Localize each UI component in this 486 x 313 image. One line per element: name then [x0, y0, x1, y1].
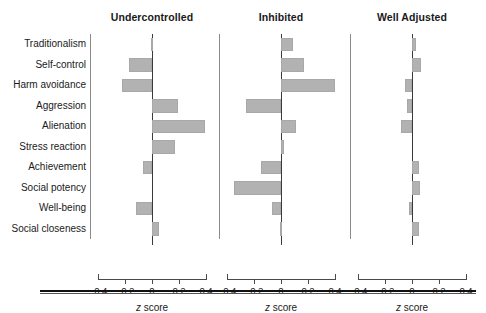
bar: [280, 222, 282, 236]
category-label: Well-being: [39, 198, 86, 219]
bar-row: [227, 178, 368, 199]
bar-row: [227, 96, 368, 117]
category-label: Aggression: [36, 96, 86, 117]
bar: [412, 181, 420, 195]
bar: [281, 120, 296, 134]
x-axis-tick: [206, 274, 207, 280]
bar-row: [358, 219, 486, 240]
x-axis-tick: [358, 274, 359, 280]
category-axis-labels: TraditionalismSelf-controlHarm avoidance…: [0, 34, 92, 239]
x-axis-tick: [227, 274, 228, 280]
category-label: Social potency: [21, 178, 86, 199]
bar-row: [98, 55, 239, 76]
footer-rule-shadow: [40, 293, 476, 294]
x-axis-title: z score: [92, 302, 212, 313]
x-axis-tick: [308, 279, 309, 284]
bar-row: [358, 198, 486, 219]
bar-row: [227, 219, 368, 240]
bar-row: [227, 198, 368, 219]
bar-row: [98, 75, 239, 96]
bar: [152, 120, 205, 134]
bar: [412, 161, 419, 175]
plot-area: [227, 34, 368, 239]
bar: [412, 58, 421, 72]
plot-area: [98, 34, 239, 239]
bar-row: [358, 55, 486, 76]
bar-row: [358, 34, 486, 55]
bar-row: [98, 198, 239, 219]
bar-row: [358, 75, 486, 96]
bar-row: [227, 157, 368, 178]
category-label: Alienation: [42, 116, 86, 137]
left-spine: [350, 34, 351, 239]
bar: [281, 58, 304, 72]
panel-well-adjusted: −0.4−0.200.20.4z score: [358, 34, 486, 239]
bar-row: [98, 157, 239, 178]
x-axis-tick: [254, 279, 255, 284]
bar-row: [227, 116, 368, 137]
bar: [409, 202, 412, 216]
bar: [281, 140, 284, 154]
x-axis-tick: [466, 274, 467, 280]
x-axis-tick: [335, 274, 336, 280]
bar: [412, 38, 416, 52]
left-spine: [219, 34, 220, 239]
panel-inhibited: −0.4−0.200.20.4z score: [227, 34, 368, 239]
x-axis-title: z score: [221, 302, 341, 313]
x-axis-tick: [125, 279, 126, 284]
x-axis-tick: [152, 279, 153, 284]
bar-row: [227, 75, 368, 96]
category-label: Traditionalism: [24, 34, 86, 55]
category-label: Social closeness: [12, 219, 86, 240]
bar-row: [98, 116, 239, 137]
bar: [151, 38, 153, 52]
bar-row: [227, 34, 368, 55]
x-axis-tick: [98, 274, 99, 280]
x-axis-tick: [179, 279, 180, 284]
x-axis-tick: [439, 279, 440, 284]
bar-row: [227, 137, 368, 158]
bar-row: [358, 137, 486, 158]
bar: [407, 99, 412, 113]
x-axis-tick: [281, 279, 282, 284]
bar: [136, 202, 152, 216]
bar: [272, 202, 281, 216]
bar-row: [98, 34, 239, 55]
category-label: Self-control: [35, 55, 86, 76]
bar: [234, 181, 281, 195]
bar: [129, 58, 152, 72]
bar-row: [358, 96, 486, 117]
x-axis-title: z score: [352, 302, 472, 313]
bar: [412, 222, 419, 236]
bar: [401, 120, 412, 134]
bar-row: [98, 178, 239, 199]
bar-row: [358, 116, 486, 137]
bar-row: [98, 219, 239, 240]
panel-undercontrolled: −0.4−0.200.20.4z score: [98, 34, 239, 239]
bar: [143, 161, 152, 175]
x-axis-tick: [385, 279, 386, 284]
bar: [281, 79, 335, 93]
category-label: Stress reaction: [19, 137, 86, 158]
bar: [281, 38, 293, 52]
bar: [246, 99, 281, 113]
bar: [152, 99, 178, 113]
bar-row: [98, 96, 239, 117]
bar-row: [358, 157, 486, 178]
bar-row: [227, 55, 368, 76]
panel-title-well-adjusted: Well Adjusted: [332, 11, 486, 23]
bar: [261, 161, 281, 175]
x-axis-tick: [412, 279, 413, 284]
bar: [152, 222, 159, 236]
bar-row: [358, 178, 486, 199]
category-label: Harm avoidance: [13, 75, 86, 96]
plot-area: [358, 34, 486, 239]
category-label: Achievement: [28, 157, 86, 178]
bar: [122, 79, 152, 93]
bar: [405, 79, 412, 93]
bar-row: [98, 137, 239, 158]
left-spine: [90, 34, 91, 239]
bar: [152, 140, 175, 154]
